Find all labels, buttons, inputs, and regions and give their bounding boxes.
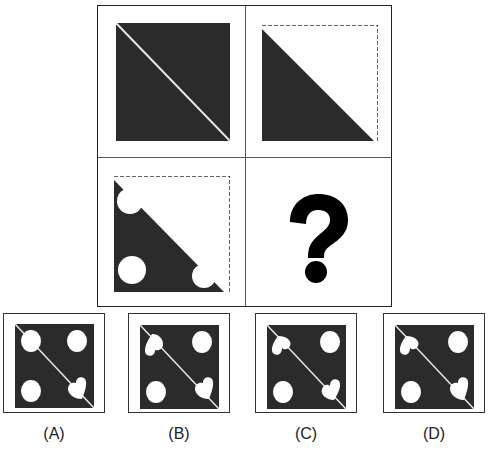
option-a-figure-icon bbox=[4, 314, 104, 412]
cell-bottom-left bbox=[114, 176, 230, 294]
option-c[interactable] bbox=[255, 313, 357, 413]
option-a[interactable] bbox=[3, 313, 105, 413]
option-b-figure-icon bbox=[129, 314, 229, 412]
option-c-figure-icon bbox=[256, 314, 356, 412]
option-d-figure-icon bbox=[384, 314, 484, 412]
question-mark-icon bbox=[278, 194, 358, 284]
option-b[interactable] bbox=[128, 313, 230, 413]
notched-triangle-icon bbox=[114, 176, 230, 294]
half-triangle-icon bbox=[262, 25, 378, 143]
grid-divider-horizontal bbox=[98, 157, 391, 158]
cell-top-right bbox=[262, 25, 378, 143]
grid-divider-vertical bbox=[245, 6, 246, 306]
cell-bottom-right bbox=[278, 194, 358, 284]
cell-top-left bbox=[116, 23, 230, 141]
diagonal-square-icon bbox=[116, 23, 230, 141]
option-d-label: (D) bbox=[383, 425, 485, 443]
puzzle-grid bbox=[97, 5, 392, 307]
option-b-label: (B) bbox=[128, 425, 230, 443]
option-a-label: (A) bbox=[3, 425, 105, 443]
option-d[interactable] bbox=[383, 313, 485, 413]
option-c-label: (C) bbox=[255, 425, 357, 443]
